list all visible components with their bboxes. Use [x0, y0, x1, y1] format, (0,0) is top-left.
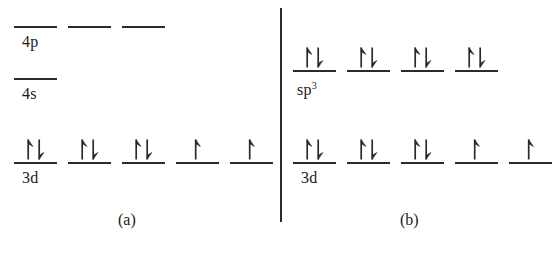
spin-down-arrow-icon [426, 140, 431, 160]
spin-down-arrow-icon [426, 48, 431, 68]
spin-up-arrow-icon [249, 140, 254, 160]
panel-caption-a: (a) [118, 212, 136, 228]
electron-arrows [176, 138, 219, 160]
spin-up-arrow-icon [82, 140, 87, 160]
electron-arrows [347, 46, 390, 68]
spin-down-arrow-icon [147, 140, 152, 160]
orbital-line [14, 78, 57, 80]
spin-down-arrow-icon [93, 140, 98, 160]
sublevel-label-superscript: 3 [312, 80, 317, 91]
orbital-line [293, 70, 336, 72]
sublevel-label-a-4p: 4p [22, 34, 38, 50]
sublevel-label-a-3d: 3d [22, 170, 38, 186]
orbital-line [68, 26, 111, 28]
electron-arrows [68, 138, 111, 160]
spin-down-arrow-icon [318, 48, 323, 68]
spin-up-arrow-icon [361, 48, 366, 68]
sublevel-label-b-sp3: sp3 [297, 82, 317, 98]
sublevel-label-b-3d: 3d [301, 170, 317, 186]
orbital-line [122, 162, 165, 164]
spin-up-arrow-icon [469, 48, 474, 68]
electron-arrows [293, 138, 336, 160]
spin-up-arrow-icon [415, 48, 420, 68]
electron-arrows [401, 138, 444, 160]
electron-arrows [293, 46, 336, 68]
electron-arrows [122, 138, 165, 160]
spin-up-arrow-icon [528, 140, 533, 160]
spin-down-arrow-icon [480, 48, 485, 68]
electron-arrows [509, 138, 552, 160]
orbital-line [14, 162, 57, 164]
orbital-line [455, 70, 498, 72]
electron-arrows [455, 138, 498, 160]
spin-up-arrow-icon [136, 140, 141, 160]
orbital-line [293, 162, 336, 164]
electron-arrows [401, 46, 444, 68]
electron-arrows [230, 138, 273, 160]
orbital-line [509, 162, 552, 164]
orbital-line [347, 70, 390, 72]
spin-up-arrow-icon [307, 48, 312, 68]
electron-arrows [347, 138, 390, 160]
orbital-line [122, 26, 165, 28]
spin-up-arrow-icon [195, 140, 200, 160]
orbital-line [230, 162, 273, 164]
sublevel-label-text: sp [297, 81, 312, 98]
orbital-line [347, 162, 390, 164]
orbital-line [455, 162, 498, 164]
panel-caption-b: (b) [400, 212, 419, 228]
sublevel-label-a-4s: 4s [22, 86, 37, 102]
orbital-line [401, 162, 444, 164]
spin-down-arrow-icon [372, 140, 377, 160]
spin-up-arrow-icon [307, 140, 312, 160]
electron-arrows [14, 138, 57, 160]
spin-up-arrow-icon [415, 140, 420, 160]
orbital-line [14, 26, 57, 28]
spin-up-arrow-icon [28, 140, 33, 160]
orbital-line [176, 162, 219, 164]
electron-arrows [455, 46, 498, 68]
orbital-diagram-figure: 4p4s3d(a)sp33d(b) [0, 0, 558, 260]
spin-down-arrow-icon [318, 140, 323, 160]
panel-divider [280, 8, 282, 222]
orbital-line [68, 162, 111, 164]
spin-down-arrow-icon [39, 140, 44, 160]
spin-up-arrow-icon [474, 140, 479, 160]
spin-up-arrow-icon [361, 140, 366, 160]
orbital-line [401, 70, 444, 72]
spin-down-arrow-icon [372, 48, 377, 68]
